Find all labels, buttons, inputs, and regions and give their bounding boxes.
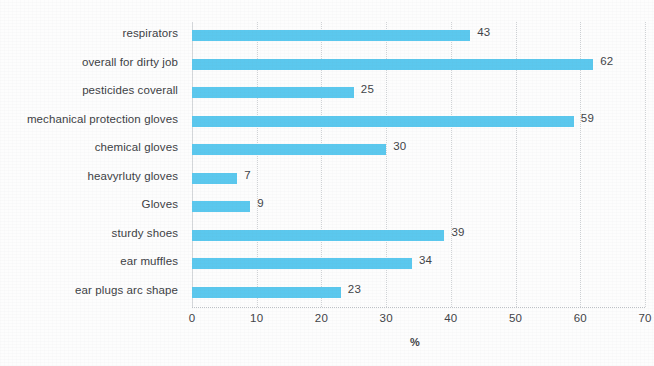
bar-row: 30 bbox=[192, 136, 645, 165]
bar-chart: respiratorsoverall for dirty jobpesticid… bbox=[0, 0, 654, 366]
bar-value-label: 23 bbox=[348, 283, 361, 295]
plot-area: 436225593079393423 bbox=[192, 22, 645, 307]
category-label: ear plugs arc shape bbox=[0, 284, 186, 296]
bar-value-label: 25 bbox=[361, 83, 374, 95]
bar-value-label: 9 bbox=[257, 197, 264, 209]
bar-value-label: 62 bbox=[600, 55, 613, 67]
x-tick-label: 20 bbox=[315, 312, 328, 324]
bar bbox=[192, 173, 237, 184]
x-axis-title: % bbox=[0, 336, 654, 348]
bar bbox=[192, 87, 354, 98]
category-label: respirators bbox=[0, 27, 186, 39]
bar-row: 9 bbox=[192, 193, 645, 222]
bar-value-label: 30 bbox=[393, 140, 406, 152]
category-label-slot: Gloves bbox=[0, 193, 186, 222]
category-label-slot: pesticides coverall bbox=[0, 79, 186, 108]
bar-row: 25 bbox=[192, 79, 645, 108]
x-tick-label: 40 bbox=[444, 312, 457, 324]
category-label: overall for dirty job bbox=[0, 56, 186, 68]
category-label-slot: respirators bbox=[0, 22, 186, 51]
bar-row: 62 bbox=[192, 51, 645, 80]
bar-row: 7 bbox=[192, 165, 645, 194]
bar-row: 43 bbox=[192, 22, 645, 51]
x-axis-title-text: % bbox=[410, 336, 420, 348]
bar bbox=[192, 59, 593, 70]
bar-row: 59 bbox=[192, 108, 645, 137]
category-label-slot: ear plugs arc shape bbox=[0, 279, 186, 308]
bar-value-label: 43 bbox=[477, 26, 490, 38]
bar bbox=[192, 201, 250, 212]
bar-row: 34 bbox=[192, 250, 645, 279]
bar-value-label: 34 bbox=[419, 254, 432, 266]
bar bbox=[192, 144, 386, 155]
x-axis-line bbox=[192, 307, 645, 308]
bar-value-label: 59 bbox=[581, 112, 594, 124]
category-label: mechanical protection gloves bbox=[0, 113, 186, 125]
bar-value-label: 7 bbox=[244, 169, 251, 181]
x-tick-label: 0 bbox=[189, 312, 196, 324]
gridline-70 bbox=[645, 22, 647, 307]
bar bbox=[192, 30, 470, 41]
bar-row: 23 bbox=[192, 279, 645, 308]
category-label: heavyrluty gloves bbox=[0, 170, 186, 182]
bar bbox=[192, 287, 341, 298]
category-label: chemical gloves bbox=[0, 141, 186, 153]
category-label-slot: chemical gloves bbox=[0, 136, 186, 165]
x-tick-label: 50 bbox=[509, 312, 522, 324]
bar-row: 39 bbox=[192, 222, 645, 251]
x-tick-label: 70 bbox=[638, 312, 651, 324]
category-label-slot: sturdy shoes bbox=[0, 222, 186, 251]
category-label-slot: heavyrluty gloves bbox=[0, 165, 186, 194]
category-label: ear muffles bbox=[0, 255, 186, 267]
category-label-slot: ear muffles bbox=[0, 250, 186, 279]
x-tick-label: 60 bbox=[574, 312, 587, 324]
bar bbox=[192, 258, 412, 269]
category-label-slot: overall for dirty job bbox=[0, 51, 186, 80]
bar-value-label: 39 bbox=[451, 226, 464, 238]
bar bbox=[192, 230, 444, 241]
bar bbox=[192, 116, 574, 127]
category-label: sturdy shoes bbox=[0, 227, 186, 239]
x-tick-label: 10 bbox=[250, 312, 263, 324]
category-label-slot: mechanical protection gloves bbox=[0, 108, 186, 137]
category-axis: respiratorsoverall for dirty jobpesticid… bbox=[0, 22, 186, 307]
category-label: pesticides coverall bbox=[0, 84, 186, 96]
x-axis-tick-labels: 010203040506070 bbox=[192, 312, 645, 332]
category-label: Gloves bbox=[0, 198, 186, 210]
x-tick-label: 30 bbox=[380, 312, 393, 324]
